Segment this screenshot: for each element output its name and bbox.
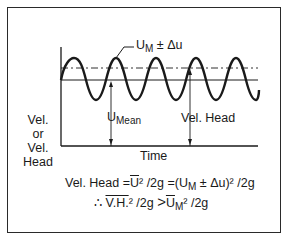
- peak-label: UM ± Δu: [136, 39, 182, 52]
- peak-leader-line: [116, 47, 134, 58]
- eq1-ubar: U: [130, 176, 139, 190]
- eq1-sub: M: [188, 181, 196, 192]
- velhead-label: Vel. Head: [181, 112, 235, 125]
- eq2-part-b: ² /2g: [129, 196, 158, 210]
- y-label-line-3: Vel.: [20, 141, 56, 155]
- umean-label: UMean: [107, 111, 141, 124]
- eq2-vh: V.H.: [105, 196, 128, 210]
- umean-arrowhead-up-icon: [109, 81, 113, 87]
- velhead-arrowhead-down-icon: [188, 139, 192, 145]
- umean-label-sub: Mean: [116, 115, 141, 126]
- eq1-part-a: Vel. Head =: [65, 176, 130, 190]
- x-axis-label: Time: [140, 150, 167, 163]
- umean-label-u: U: [107, 110, 116, 124]
- peak-label-sub: M: [145, 43, 153, 54]
- eq2-part-c: ² /2g: [183, 196, 208, 210]
- eq1-part-b: ² /2g =(U: [139, 176, 188, 190]
- equation-line-1: Vel. Head =U² /2g =(UM ± Δu)² /2g: [65, 176, 255, 190]
- umean-arrowhead-down-icon: [109, 139, 113, 145]
- peak-label-u: U: [136, 38, 145, 52]
- y-label-line-4: Head: [20, 155, 56, 169]
- y-axis-label: Vel. or Vel. Head: [20, 113, 56, 169]
- peak-label-rest: ± Δu: [153, 38, 182, 52]
- eq2-sub: M: [175, 201, 183, 212]
- eq2-therefore: ∴: [94, 196, 105, 210]
- equation-line-2: ∴ V.H.² /2g >UM² /2g: [94, 193, 208, 210]
- eq2-gt: >: [157, 193, 166, 210]
- eq2-ubar: U: [166, 196, 175, 210]
- eq1-part-c: ± Δu)² /2g: [196, 176, 254, 190]
- velocity-wave: [61, 58, 259, 100]
- y-label-line-2: or: [20, 127, 56, 141]
- y-label-line-1: Vel.: [20, 113, 56, 127]
